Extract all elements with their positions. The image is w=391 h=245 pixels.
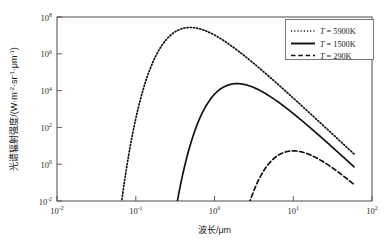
curve-290k [249, 151, 354, 204]
y-tick-labels: 108 106 104 102 100 10-2 [39, 12, 52, 207]
x-axis-title: 波长/μm [198, 224, 231, 235]
legend-label-290k: T = 290K [320, 52, 352, 61]
x-tick-label: 102 [366, 205, 378, 216]
y-tick-label: 10-2 [39, 196, 52, 207]
blackbody-spectral-radiance-chart: 10-2 10-1 100 101 102 108 106 [0, 0, 391, 245]
y-tick-label: 104 [41, 86, 53, 97]
x-tick-marks [57, 196, 372, 201]
y-tick-marks [57, 17, 62, 201]
legend: T = 5900K T = 1500K T = 290K [286, 20, 374, 61]
x-tick-labels: 10-2 10-1 100 101 102 [50, 205, 377, 216]
curve-1500k [177, 84, 354, 204]
y-tick-label: 100 [41, 159, 53, 170]
y-tick-label: 102 [41, 122, 53, 133]
legend-label-1500k: T = 1500K [320, 40, 356, 49]
y-axis-title: 光谱辐射强度/(W·m-2·sr-1·μm-1) [8, 47, 19, 171]
x-tick-label: 100 [209, 205, 221, 216]
x-tick-label: 101 [288, 205, 300, 216]
chart-svg: 10-2 10-1 100 101 102 108 106 [0, 0, 391, 245]
x-tick-label: 10-2 [50, 205, 63, 216]
x-tick-label: 10-1 [129, 205, 142, 216]
y-tick-label: 106 [41, 49, 53, 60]
legend-label-5900k: T = 5900K [320, 27, 356, 36]
y-tick-label: 108 [41, 12, 53, 23]
